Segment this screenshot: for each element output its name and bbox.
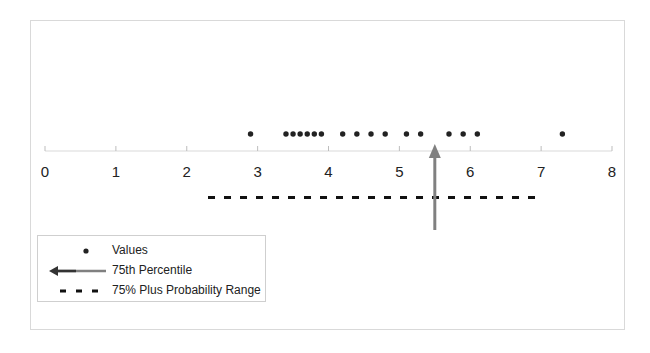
arrow-left-icon bbox=[46, 261, 106, 281]
value-point bbox=[354, 131, 359, 136]
value-point bbox=[368, 131, 373, 136]
legend-label: 75% Plus Probability Range bbox=[112, 283, 261, 297]
value-point bbox=[312, 131, 317, 136]
value-point bbox=[319, 131, 324, 136]
x-tick-label: 8 bbox=[608, 163, 616, 180]
dot-marker-icon bbox=[46, 241, 106, 261]
x-axis: 012345678 bbox=[41, 146, 616, 180]
value-point bbox=[560, 131, 565, 136]
x-tick-label: 0 bbox=[41, 163, 49, 180]
values-series bbox=[248, 131, 565, 136]
legend-item-range: 75% Plus Probability Range bbox=[38, 281, 265, 301]
value-point bbox=[248, 131, 253, 136]
x-tick-label: 7 bbox=[537, 163, 545, 180]
legend-item-values: Values bbox=[38, 241, 265, 261]
value-point bbox=[283, 131, 288, 136]
x-tick-label: 3 bbox=[253, 163, 261, 180]
percentile-arrow bbox=[429, 144, 441, 230]
x-tick-label: 5 bbox=[395, 163, 403, 180]
value-point bbox=[305, 131, 310, 136]
value-point bbox=[475, 131, 480, 136]
value-point bbox=[446, 131, 451, 136]
value-point bbox=[460, 131, 465, 136]
value-point bbox=[290, 131, 295, 136]
legend-item-percentile: 75th Percentile bbox=[38, 261, 265, 281]
value-point bbox=[418, 131, 423, 136]
value-point bbox=[404, 131, 409, 136]
value-point bbox=[297, 131, 302, 136]
value-point bbox=[340, 131, 345, 136]
legend: Values 75th Percentile 75% Plus Probabil… bbox=[37, 235, 266, 302]
x-tick-label: 4 bbox=[324, 163, 332, 180]
x-tick-label: 1 bbox=[112, 163, 120, 180]
x-tick-label: 6 bbox=[466, 163, 474, 180]
legend-label: Values bbox=[112, 243, 148, 257]
legend-label: 75th Percentile bbox=[112, 263, 192, 277]
value-point bbox=[383, 131, 388, 136]
x-tick-label: 2 bbox=[183, 163, 191, 180]
dashed-line-icon bbox=[46, 281, 106, 301]
